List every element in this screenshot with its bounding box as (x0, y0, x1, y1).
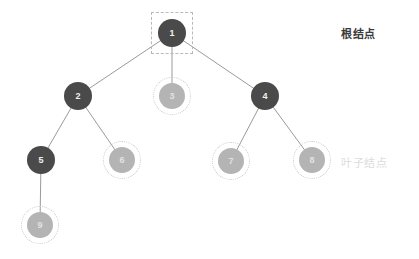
tree-node-label: 6 (119, 156, 124, 165)
tree-node-label: 2 (75, 92, 80, 101)
leaf-label: 叶子结点 (341, 154, 387, 170)
tree-node-label: 4 (262, 92, 267, 101)
tree-node-label: 1 (169, 29, 174, 38)
root-label: 根结点 (341, 25, 376, 41)
tree-node-label: 7 (228, 157, 233, 166)
tree-node-7[interactable]: 7 (218, 148, 244, 174)
tree-node-1[interactable]: 1 (158, 19, 186, 47)
tree-node-label: 5 (38, 156, 43, 165)
tree-node-6[interactable]: 6 (109, 147, 135, 173)
tree-edge (183, 40, 254, 88)
tree-node-label: 3 (169, 92, 174, 101)
tree-node-5[interactable]: 5 (27, 146, 55, 174)
tree-node-3[interactable]: 3 (159, 83, 185, 109)
tree-node-4[interactable]: 4 (251, 82, 279, 110)
tree-edge (48, 107, 72, 148)
tree-node-label: 8 (309, 156, 314, 165)
tree-node-2[interactable]: 2 (64, 82, 92, 110)
tree-node-label: 9 (37, 221, 42, 230)
tree-diagram-canvas: 123456789 根结点叶子结点 (0, 0, 419, 259)
tree-node-9[interactable]: 9 (27, 212, 53, 238)
tree-node-8[interactable]: 8 (299, 147, 325, 173)
